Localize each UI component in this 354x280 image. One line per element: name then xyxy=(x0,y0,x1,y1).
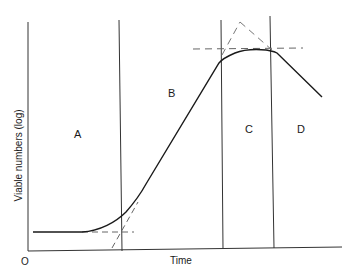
origin-label: O xyxy=(21,257,29,267)
y-axis-label: Viable numbers (log) xyxy=(13,101,24,211)
exp-extension-dashed xyxy=(222,22,240,55)
stationary-tangent-horizontal xyxy=(193,48,303,49)
phase-label-b: B xyxy=(168,88,175,99)
lag-tangent-diagonal xyxy=(112,202,138,248)
phase-label-d: D xyxy=(297,124,305,135)
phase-label-a: A xyxy=(74,129,81,140)
phase-label-c: C xyxy=(245,124,253,135)
x-axis xyxy=(28,247,342,251)
growth-curve-diagram xyxy=(0,0,354,280)
x-axis-label: Time xyxy=(170,256,192,266)
decline-extension-dashed xyxy=(240,22,272,50)
growth-curve xyxy=(33,49,322,232)
